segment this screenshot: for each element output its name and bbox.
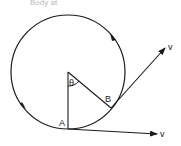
velocity-vector-b [111,48,165,108]
direction-arrow-top-right-icon [110,33,116,41]
caption-fragment: Body at [30,0,58,7]
velocity-vector-a [68,129,157,134]
point-b-label: B [105,94,111,104]
circular-motion-diagram: Body at θ A B v v [0,0,181,146]
velocity-b-label: v [168,42,173,52]
theta-label: θ [69,78,74,88]
point-a-label: A [59,118,65,128]
velocity-a-label: v [160,129,165,139]
